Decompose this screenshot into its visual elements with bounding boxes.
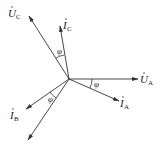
label-uc: U C [8, 6, 21, 21]
angle-arc-a [90, 79, 92, 88]
svg-text:A: A [124, 103, 129, 111]
svg-text:C: C [67, 25, 72, 33]
angle-label-b: φ [48, 94, 53, 104]
svg-text:B: B [14, 115, 19, 123]
label-ia: I A [119, 96, 129, 111]
angle-label-c: φ [57, 46, 62, 56]
label-ic: I C [62, 18, 72, 33]
svg-text:C: C [16, 13, 21, 21]
phasor-ub [28, 79, 69, 140]
label-ua: U A [140, 72, 153, 87]
angle-label-a: φ [94, 79, 99, 89]
phasor-diagram: φ φ φ U C I C U A I A I B [0, 0, 163, 154]
svg-text:A: A [148, 79, 153, 87]
label-ib: I B [9, 108, 19, 123]
